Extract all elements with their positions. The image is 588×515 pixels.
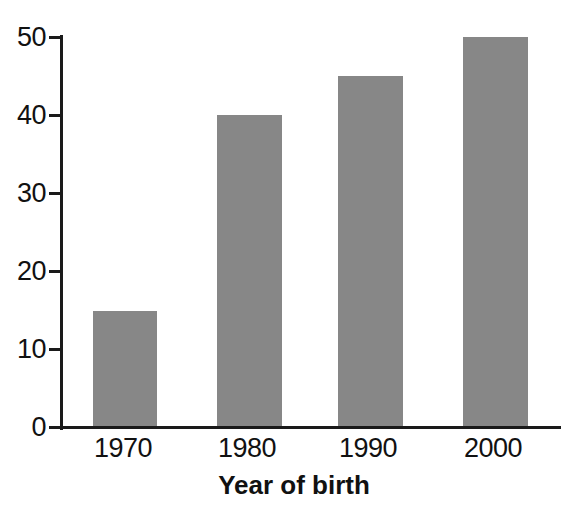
y-tick-mark-10 <box>49 348 62 351</box>
plot-area <box>62 37 560 428</box>
y-tick-label-20: 20 <box>0 258 46 285</box>
bar-2000 <box>463 37 528 428</box>
bar-chart-figure: 0 10 20 30 40 50 1970 1980 1990 2000 Yea… <box>0 0 588 515</box>
y-tick-mark-50 <box>49 36 62 39</box>
x-tick-label-2000: 2000 <box>433 434 553 462</box>
y-tick-mark-40 <box>49 114 62 117</box>
y-tick-label-40: 40 <box>0 102 46 129</box>
x-axis-line <box>60 426 561 429</box>
y-tick-label-10: 10 <box>0 336 46 363</box>
y-tick-label-0: 0 <box>0 414 46 441</box>
bar-1990 <box>338 76 403 428</box>
x-axis-title: Year of birth <box>0 470 588 500</box>
y-tick-label-30: 30 <box>0 180 46 207</box>
bar-1980 <box>217 115 282 428</box>
x-tick-label-1990: 1990 <box>308 434 428 462</box>
bar-1970 <box>93 311 157 428</box>
x-tick-label-1970: 1970 <box>63 434 183 462</box>
x-tick-label-1980: 1980 <box>187 434 307 462</box>
y-tick-mark-20 <box>49 270 62 273</box>
y-tick-label-50: 50 <box>0 24 46 51</box>
y-tick-mark-30 <box>49 192 62 195</box>
